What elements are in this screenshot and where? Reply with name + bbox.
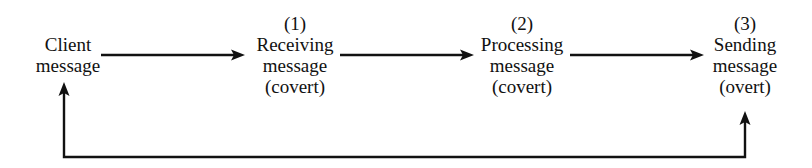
diagram-canvas: Client message (1) Receiving message (co… [0,0,812,168]
node-processing-mode: (covert) [481,76,563,97]
node-receiving-message: (1) Receiving message (covert) [256,13,333,97]
diagram-connectors-layer [0,0,812,168]
node-client-message: Client message [36,34,100,76]
node-sending-message: (3) Sending message (overt) [713,13,777,97]
connector-feedback-loop [59,82,751,157]
node-processing-message: (2) Processing message (covert) [481,13,563,97]
node-processing-title: Processing [481,34,563,55]
node-sending-mode: (overt) [713,76,777,97]
connector-client-to-receiving [101,50,245,61]
node-client-title: Client [36,34,100,55]
node-receiving-mode: (covert) [256,76,333,97]
node-sending-title: Sending [713,34,777,55]
connector-receiving-to-processing [340,50,474,61]
node-processing-subtitle: message [481,55,563,76]
node-processing-number: (2) [481,13,563,34]
node-receiving-title: Receiving [256,34,333,55]
node-sending-number: (3) [713,13,777,34]
node-client-subtitle: message [36,55,100,76]
connector-processing-to-sending [570,50,704,61]
node-receiving-number: (1) [256,13,333,34]
node-sending-subtitle: message [713,55,777,76]
node-receiving-subtitle: message [256,55,333,76]
